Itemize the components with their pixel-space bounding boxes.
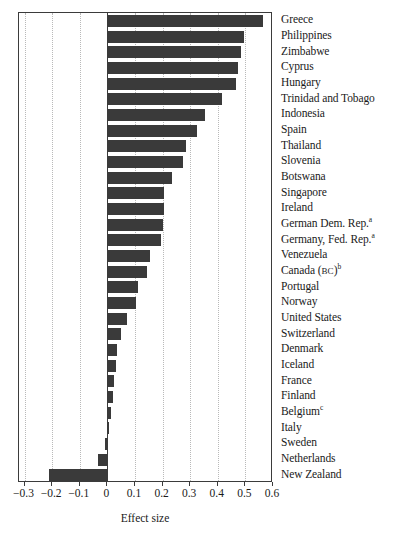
country-label: Iceland xyxy=(281,358,314,370)
x-axis-title: Effect size xyxy=(18,512,272,524)
footnote-marker: a xyxy=(369,215,372,224)
footnote-marker: a xyxy=(371,231,374,240)
footnote-marker: c xyxy=(320,403,323,412)
bar-row xyxy=(19,156,271,168)
x-tick-mark xyxy=(106,482,107,486)
bar xyxy=(107,313,126,325)
country-label: New Zealand xyxy=(281,468,342,480)
country-label: France xyxy=(281,374,312,386)
country-label: Spain xyxy=(281,123,307,135)
bar-row xyxy=(19,360,271,372)
country-label: Finland xyxy=(281,389,315,401)
bar xyxy=(107,62,238,74)
bar-row xyxy=(19,31,271,43)
country-label: Netherlands xyxy=(281,452,335,464)
bar xyxy=(107,15,263,27)
bar xyxy=(107,375,114,387)
country-label: Belgiumc xyxy=(281,405,323,417)
bar-row xyxy=(19,454,271,466)
country-label: Slovenia xyxy=(281,154,320,166)
smallcaps-abbrev: BC xyxy=(321,266,333,276)
country-label: Indonesia xyxy=(281,107,325,119)
effect-size-bar-chart: GreecePhilippinesZimbabweCyprusHungaryTr… xyxy=(0,0,402,541)
country-label: Ireland xyxy=(281,201,313,213)
bar-row xyxy=(19,469,271,481)
bar-row xyxy=(19,187,271,199)
bar-row xyxy=(19,407,271,419)
country-label: German Dem. Rep.a xyxy=(281,217,372,229)
bar xyxy=(107,31,244,43)
bar xyxy=(107,172,172,184)
x-tick-mark xyxy=(217,482,218,486)
country-label: Zimbabwe xyxy=(281,45,329,57)
bar xyxy=(107,140,186,152)
bar xyxy=(107,407,111,419)
bar xyxy=(107,250,150,262)
bar-row xyxy=(19,62,271,74)
x-tick-mark xyxy=(189,482,190,486)
x-tick-mark xyxy=(272,482,273,486)
country-label: Norway xyxy=(281,295,317,307)
country-label: Greece xyxy=(281,13,313,25)
bar-row xyxy=(19,344,271,356)
plot-area xyxy=(18,12,272,482)
country-label: Thailand xyxy=(281,139,321,151)
bar xyxy=(107,360,115,372)
bar-row xyxy=(19,281,271,293)
bar xyxy=(107,187,164,199)
bar-row xyxy=(19,109,271,121)
bar xyxy=(107,125,197,137)
bar-row xyxy=(19,438,271,450)
x-axis: −0.3−0.2−0.100.10.20.30.40.50.6 xyxy=(18,482,272,506)
bar xyxy=(98,454,108,466)
bar-row xyxy=(19,203,271,215)
bar xyxy=(107,422,108,434)
bar xyxy=(107,281,137,293)
bar-row xyxy=(19,313,271,325)
bar-row xyxy=(19,297,271,309)
country-label: Portugal xyxy=(281,280,319,292)
country-label: Sweden xyxy=(281,436,317,448)
bar-row xyxy=(19,328,271,340)
bar xyxy=(107,156,183,168)
bar xyxy=(107,266,147,278)
bar xyxy=(107,46,241,58)
bar-row xyxy=(19,422,271,434)
bar xyxy=(107,344,117,356)
country-label: Italy xyxy=(281,421,302,433)
bar-row xyxy=(19,125,271,137)
category-labels: GreecePhilippinesZimbabweCyprusHungaryTr… xyxy=(281,12,402,482)
bar-row xyxy=(19,15,271,27)
country-label: Hungary xyxy=(281,76,321,88)
x-tick-mark xyxy=(24,482,25,486)
country-label: Cyprus xyxy=(281,60,314,72)
bar-row xyxy=(19,219,271,231)
bar xyxy=(107,297,136,309)
footnote-marker: b xyxy=(338,262,342,271)
bar-row xyxy=(19,266,271,278)
country-label: Venezuela xyxy=(281,248,327,260)
bar xyxy=(107,203,164,215)
bar xyxy=(107,78,235,90)
bar xyxy=(49,469,107,481)
country-label: Philippines xyxy=(281,29,332,41)
x-tick-label: 0.6 xyxy=(252,487,292,500)
bar-row xyxy=(19,250,271,262)
bar-row xyxy=(19,391,271,403)
x-tick-mark xyxy=(134,482,135,486)
country-label: Botswana xyxy=(281,170,326,182)
x-tick-mark xyxy=(244,482,245,486)
bar-row xyxy=(19,78,271,90)
bar-row xyxy=(19,140,271,152)
bar xyxy=(107,391,113,403)
bar-row xyxy=(19,172,271,184)
bar-row xyxy=(19,375,271,387)
country-label: Trinidad and Tobago xyxy=(281,92,375,104)
x-tick-mark xyxy=(79,482,80,486)
x-tick-mark xyxy=(162,482,163,486)
bar-row xyxy=(19,46,271,58)
bar xyxy=(105,438,108,450)
x-tick-mark xyxy=(51,482,52,486)
country-label: Singapore xyxy=(281,186,327,198)
country-label: Germany, Fed. Rep.a xyxy=(281,233,375,245)
